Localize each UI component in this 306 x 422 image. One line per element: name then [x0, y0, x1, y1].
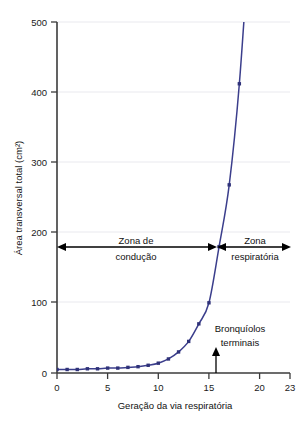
y-ticklabel-500: 500 — [31, 17, 47, 28]
data-point-marker — [157, 361, 160, 364]
x-ticklabel-15: 15 — [204, 382, 215, 393]
x-ticklabel-5: 5 — [105, 382, 110, 393]
terminal-bronchioles-label-line2: terminais — [221, 337, 260, 348]
x-ticklabel-0: 0 — [54, 382, 59, 393]
x-ticklabel-20: 20 — [254, 382, 265, 393]
data-point-marker — [65, 368, 68, 371]
x-axis-title: Geração da via respiratória — [118, 400, 233, 411]
data-point-marker — [76, 368, 79, 371]
data-point-marker — [207, 301, 210, 304]
data-point-marker — [228, 183, 231, 186]
data-point-marker — [187, 340, 190, 343]
data-point-marker — [177, 350, 180, 353]
y-ticklabel-400: 400 — [31, 87, 47, 98]
chart-figure: 500 400 300 200 100 0 0 5 10 15 20 23 Ge… — [0, 0, 306, 422]
x-ticklabel-23: 23 — [285, 382, 296, 393]
data-point-marker — [167, 357, 170, 360]
respiratory-zone-label-line2: respiratória — [231, 251, 279, 262]
respiratory-zone-label-line1: Zona — [244, 235, 266, 246]
conduction-zone-label-line2: condução — [115, 251, 156, 262]
data-point-marker — [238, 82, 241, 85]
terminal-bronchioles-label-line1: Bronquíolos — [215, 323, 266, 334]
y-ticklabel-0: 0 — [42, 368, 47, 379]
data-point-marker — [116, 366, 119, 369]
y-ticklabel-200: 200 — [31, 227, 47, 238]
x-ticklabel-10: 10 — [153, 382, 164, 393]
data-point-marker — [96, 367, 99, 370]
data-point-marker — [86, 367, 89, 370]
y-axis-title: Área transversal total (cm²) — [13, 141, 24, 256]
data-point-marker — [126, 366, 129, 369]
data-point-marker — [146, 364, 149, 367]
y-ticklabel-100: 100 — [31, 297, 47, 308]
cross-sectional-area-chart: 500 400 300 200 100 0 0 5 10 15 20 23 Ge… — [0, 0, 306, 422]
data-point-marker — [197, 322, 200, 325]
y-ticklabel-300: 300 — [31, 157, 47, 168]
conduction-zone-label-line1: Zona de — [119, 235, 154, 246]
data-point-marker — [136, 365, 139, 368]
chart-background — [0, 0, 306, 422]
data-point-marker — [106, 366, 109, 369]
